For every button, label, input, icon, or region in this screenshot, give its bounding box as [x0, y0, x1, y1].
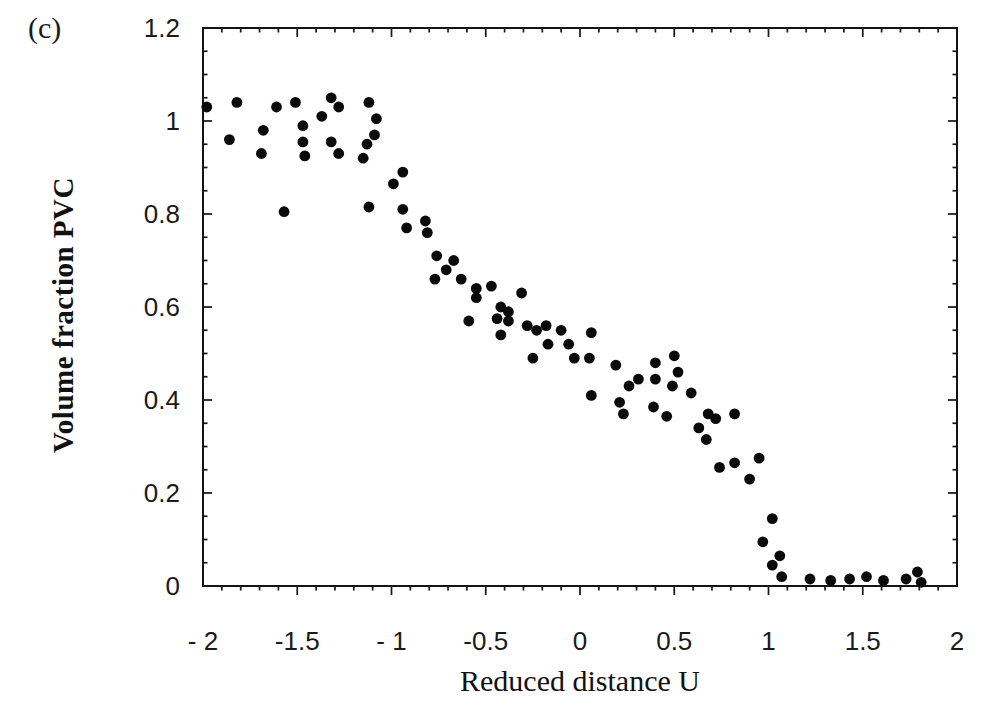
data-point: [298, 120, 309, 131]
data-point: [362, 139, 373, 150]
data-point: [232, 97, 243, 108]
data-point: [401, 223, 412, 234]
data-point: [503, 316, 514, 327]
data-point: [290, 97, 301, 108]
y-tick-labels: 00.20.40.60.811.2: [144, 13, 180, 601]
data-point: [441, 264, 452, 275]
x-tick-label: 1.5: [845, 626, 881, 656]
data-point: [397, 204, 408, 215]
data-point: [757, 536, 768, 547]
data-point: [754, 453, 765, 464]
data-point: [901, 574, 912, 585]
data-point: [686, 388, 697, 399]
data-point: [471, 283, 482, 294]
data-point: [563, 339, 574, 350]
x-tick-label: -0.5: [463, 626, 508, 656]
data-point: [316, 111, 327, 122]
data-point: [422, 227, 433, 238]
x-tick-label: 2: [950, 626, 964, 656]
data-point: [912, 567, 923, 578]
data-point: [516, 288, 527, 299]
data-point: [624, 381, 635, 392]
data-point: [693, 423, 704, 434]
y-tick-label: 0.2: [144, 478, 180, 508]
scatter-plot: - 2-1.5- 1-0.500.511.5200.20.40.60.811.2: [0, 0, 985, 714]
x-tick-label: - 2: [188, 626, 218, 656]
data-point: [364, 97, 375, 108]
data-point: [388, 178, 399, 189]
x-tick-label: 1: [761, 626, 775, 656]
data-point: [825, 575, 836, 586]
data-point: [729, 409, 740, 420]
data-point: [701, 434, 712, 445]
data-point: [431, 250, 442, 261]
data-point: [618, 409, 629, 420]
y-tick-label: 0: [166, 571, 180, 601]
data-point: [358, 153, 369, 164]
data-point: [633, 374, 644, 385]
figure-canvas: (c) Volume fraction PVC - 2-1.5- 1-0.500…: [0, 0, 985, 714]
data-point: [258, 125, 269, 136]
data-point: [528, 353, 539, 364]
data-point: [430, 274, 441, 285]
x-tick-label: -1.5: [275, 626, 320, 656]
data-point: [774, 550, 785, 561]
data-point: [878, 575, 889, 586]
y-tick-label: 0.4: [144, 385, 180, 415]
data-point: [326, 137, 337, 148]
data-point: [471, 292, 482, 303]
data-point: [256, 148, 267, 159]
data-point: [710, 413, 721, 424]
data-point: [369, 130, 380, 141]
data-point: [667, 381, 678, 392]
data-point: [556, 325, 567, 336]
data-point: [333, 102, 344, 113]
data-point: [569, 353, 580, 364]
data-point: [299, 151, 310, 162]
x-tick-labels: - 2-1.5- 1-0.500.511.52: [188, 626, 964, 656]
data-point: [650, 374, 661, 385]
data-point: [463, 316, 474, 327]
y-tick-label: 0.8: [144, 199, 180, 229]
data-point: [448, 255, 459, 266]
x-tick-label: - 1: [376, 626, 406, 656]
data-point: [844, 574, 855, 585]
data-point: [669, 350, 680, 361]
data-point: [364, 202, 375, 213]
data-point: [224, 134, 235, 145]
data-point: [492, 313, 503, 324]
axis-ticks: [203, 28, 957, 595]
data-point: [776, 571, 787, 582]
plot-border: [203, 28, 957, 586]
data-point: [271, 102, 282, 113]
data-point: [420, 216, 431, 227]
y-tick-label: 1.2: [144, 13, 180, 43]
data-point: [503, 306, 514, 317]
data-point: [714, 462, 725, 473]
y-tick-label: 1: [166, 106, 180, 136]
x-tick-label: 0.5: [656, 626, 692, 656]
data-point: [610, 360, 621, 371]
data-point: [541, 320, 552, 331]
data-point: [326, 92, 337, 103]
data-point: [648, 402, 659, 413]
data-point: [456, 274, 467, 285]
data-point: [486, 281, 497, 292]
data-point: [767, 513, 778, 524]
data-point: [543, 339, 554, 350]
data-point: [584, 353, 595, 364]
data-point: [673, 367, 684, 378]
data-point: [586, 390, 597, 401]
data-point: [531, 325, 542, 336]
data-point: [586, 327, 597, 338]
x-tick-label: 0: [573, 626, 587, 656]
data-point: [279, 206, 290, 217]
data-point: [744, 474, 755, 485]
data-point: [661, 411, 672, 422]
data-point: [397, 167, 408, 178]
x-axis-title: Reduced distance U: [203, 664, 957, 698]
data-point: [729, 457, 740, 468]
data-point: [333, 148, 344, 159]
data-point: [916, 577, 927, 588]
data-point: [371, 113, 382, 124]
